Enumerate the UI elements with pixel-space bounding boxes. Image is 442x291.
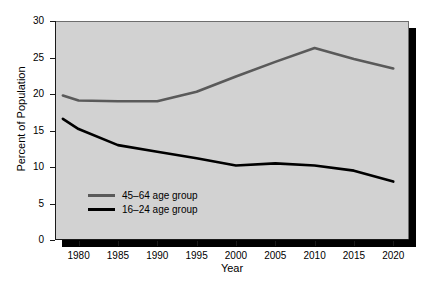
- y-axis-line: [55, 21, 56, 240]
- y-tick-label: 0: [20, 235, 44, 245]
- y-tick-mark: [50, 58, 55, 59]
- x-axis-title: Year: [212, 262, 252, 274]
- legend-item-younger: 16–24 age group: [88, 202, 198, 216]
- y-axis-title: Percent of Population: [15, 49, 27, 189]
- legend-item-older: 45–64 age group: [88, 188, 198, 202]
- y-tick-mark: [50, 167, 55, 168]
- legend-swatch-icon-younger: [88, 208, 115, 211]
- x-tick-mark: [236, 241, 237, 246]
- x-tick-label: 1985: [98, 251, 138, 261]
- y-tick-mark: [50, 240, 55, 241]
- x-tick-label: 1980: [59, 251, 99, 261]
- panel-shadow-right: [409, 28, 416, 247]
- x-tick-mark: [79, 241, 80, 246]
- legend-label-older: 45–64 age group: [122, 190, 198, 201]
- x-tick-mark: [354, 241, 355, 246]
- x-tick-mark: [393, 241, 394, 246]
- x-axis-line: [55, 239, 409, 240]
- x-tick-mark: [315, 241, 316, 246]
- legend: 45–64 age group 16–24 age group: [88, 188, 198, 216]
- y-tick-mark: [50, 21, 55, 22]
- x-tick-mark: [118, 241, 119, 246]
- x-tick-label: 1990: [137, 251, 177, 261]
- y-tick-mark: [50, 94, 55, 95]
- legend-label-younger: 16–24 age group: [122, 204, 198, 215]
- chart-figure: 051015202530 198019851990199520002005201…: [0, 0, 442, 291]
- y-tick-mark: [50, 131, 55, 132]
- x-tick-label: 2015: [334, 251, 374, 261]
- legend-swatch-icon-older: [88, 194, 115, 197]
- x-tick-label: 2005: [255, 251, 295, 261]
- y-tick-label: 5: [20, 199, 44, 209]
- x-tick-label: 2020: [373, 251, 413, 261]
- x-tick-label: 2000: [216, 251, 256, 261]
- series-line-younger: [63, 119, 393, 182]
- x-tick-mark: [157, 241, 158, 246]
- y-tick-mark: [50, 204, 55, 205]
- x-tick-mark: [197, 241, 198, 246]
- x-tick-label: 1995: [177, 251, 217, 261]
- series-line-older: [63, 48, 393, 101]
- x-tick-mark: [275, 241, 276, 246]
- x-tick-label: 2010: [295, 251, 335, 261]
- y-tick-label: 30: [20, 16, 44, 26]
- panel-shadow-bottom: [62, 240, 416, 247]
